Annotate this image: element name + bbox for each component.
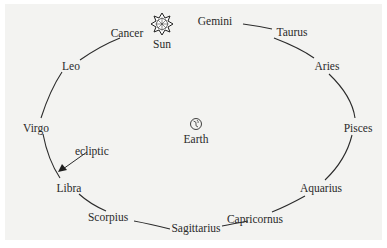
- constellation-aries: Aries: [315, 60, 340, 72]
- constellation-pisces: Pisces: [344, 122, 373, 134]
- ecliptic-diagram: ecliptic Sun Earth Gemini Taurus Aries P…: [0, 0, 387, 248]
- constellation-gemini: Gemini: [198, 15, 233, 27]
- ecliptic-path: [41, 24, 355, 229]
- constellation-taurus: Taurus: [276, 26, 308, 38]
- constellation-virgo: Virgo: [23, 122, 49, 135]
- constellation-libra: Libra: [57, 182, 82, 194]
- earth-symbol-icon: [191, 119, 202, 130]
- constellation-cancer: Cancer: [111, 27, 144, 39]
- constellation-sagittarius: Sagittarius: [171, 222, 221, 235]
- constellation-capricornus: Capricornus: [227, 213, 284, 226]
- earth-label: Earth: [184, 133, 209, 145]
- constellation-leo: Leo: [62, 60, 80, 72]
- ecliptic-label: ecliptic: [75, 145, 109, 158]
- constellation-scorpius: Scorpius: [88, 211, 129, 224]
- constellation-aquarius: Aquarius: [300, 182, 343, 195]
- sun-star-icon: [151, 13, 173, 35]
- sun-label: Sun: [153, 38, 171, 50]
